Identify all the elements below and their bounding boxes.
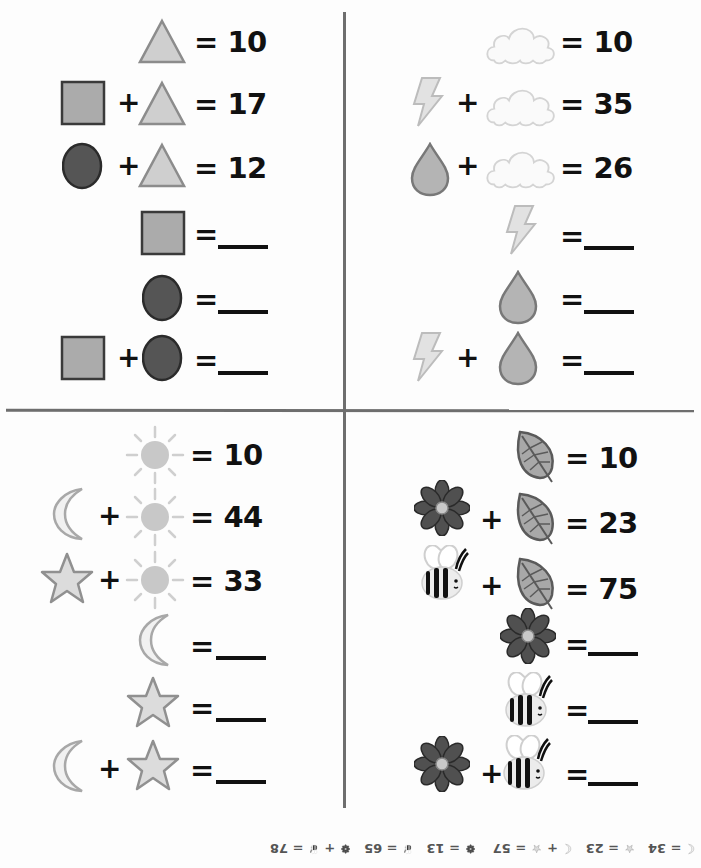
- equation-result: =: [565, 630, 589, 659]
- horizontal-divider: [6, 409, 694, 413]
- equation-result: = 10: [194, 28, 267, 57]
- raindrop-icon: [498, 270, 538, 326]
- plus-sign: +: [117, 152, 140, 180]
- cloud-icon: [485, 80, 557, 130]
- flower-icon: [341, 842, 350, 856]
- square-icon: [60, 80, 108, 128]
- cloud-icon: [485, 142, 557, 192]
- equation-result: = 17: [194, 90, 267, 119]
- equation-result: = 75: [565, 575, 638, 604]
- plus-sign: +: [456, 89, 479, 117]
- equation-result: = 23: [565, 509, 638, 538]
- equation-result: =: [560, 285, 584, 314]
- equation-result: =: [560, 222, 584, 251]
- circle-icon: [62, 142, 104, 192]
- equation-result: =: [194, 346, 218, 375]
- leaf-icon: [512, 555, 558, 613]
- answer-blank[interactable]: [216, 656, 266, 660]
- moon-icon: [48, 738, 88, 794]
- flower-icon: [500, 608, 556, 664]
- equation-result: =: [190, 694, 214, 723]
- answer-key-item: = 78: [270, 842, 304, 857]
- leaf-icon: [512, 490, 558, 548]
- answer-blank[interactable]: [216, 780, 266, 784]
- equation-result: = 10: [560, 28, 633, 57]
- plus-sign: +: [480, 506, 503, 534]
- answer-blank[interactable]: [588, 720, 638, 724]
- triangle-icon: [138, 142, 186, 190]
- answer-blank[interactable]: [588, 782, 638, 786]
- equation-result: = 33: [190, 567, 263, 596]
- answer-key-item: +: [324, 842, 335, 857]
- answer-blank[interactable]: [584, 310, 634, 314]
- circle-icon: [142, 334, 184, 384]
- answer-blank[interactable]: [216, 718, 266, 722]
- answer-blank[interactable]: [218, 371, 268, 375]
- equation-result: =: [194, 220, 218, 249]
- square-icon: [140, 210, 188, 258]
- answer-key-item: = 23: [586, 842, 620, 857]
- equation-result: = 26: [560, 154, 633, 183]
- equation-result: =: [194, 285, 218, 314]
- flower-icon: [414, 736, 470, 792]
- answer-blank[interactable]: [218, 245, 268, 249]
- answer-key-item: = 65: [364, 842, 398, 857]
- equation-result: =: [565, 760, 589, 789]
- flower-icon: [414, 480, 470, 536]
- equation-result: = 12: [194, 154, 267, 183]
- plus-sign: +: [456, 152, 479, 180]
- equation-result: = 35: [560, 90, 633, 119]
- equation-result: = 10: [565, 444, 638, 473]
- cloud-icon: [485, 18, 557, 68]
- bee-icon: [418, 545, 472, 603]
- answer-blank[interactable]: [584, 371, 634, 375]
- bee-icon: [502, 672, 556, 730]
- star-icon: [126, 739, 181, 791]
- answer-blank[interactable]: [584, 246, 634, 250]
- bee-icon: [500, 735, 554, 793]
- equation-result: =: [560, 346, 584, 375]
- plus-sign: +: [98, 502, 121, 530]
- equation-result: =: [190, 632, 214, 661]
- plus-sign: +: [98, 566, 121, 594]
- leaf-icon: [512, 428, 558, 486]
- raindrop-icon: [498, 331, 538, 387]
- answer-key-item: +: [547, 842, 558, 857]
- plus-sign: +: [456, 344, 479, 372]
- equation-result: = 44: [190, 503, 263, 532]
- star-icon: [532, 842, 541, 856]
- square-icon: [60, 335, 108, 383]
- plus-sign: +: [117, 89, 140, 117]
- answer-key-item: = 34: [648, 842, 682, 857]
- bee-icon: [310, 842, 319, 856]
- answer-key-item: = 57: [493, 842, 527, 857]
- equation-result: =: [190, 756, 214, 785]
- triangle-icon: [138, 80, 186, 128]
- equation-result: = 10: [190, 441, 263, 470]
- flower-icon: [466, 842, 475, 856]
- answer-blank[interactable]: [588, 652, 638, 656]
- lightning-icon: [410, 76, 446, 130]
- triangle-icon: [138, 18, 186, 66]
- plus-sign: +: [117, 344, 140, 372]
- raindrop-icon: [410, 142, 450, 198]
- star-icon: [625, 842, 634, 856]
- star-icon: [126, 676, 181, 728]
- bee-icon: [404, 842, 413, 856]
- lightning-icon: [410, 331, 446, 385]
- answer-blank[interactable]: [218, 310, 268, 314]
- moon-icon: [564, 842, 572, 856]
- answer-key-item: = 13: [426, 842, 460, 857]
- sun-icon: [125, 425, 185, 485]
- sun-icon: [125, 487, 185, 547]
- star-icon: [40, 552, 95, 604]
- plus-sign: +: [98, 755, 121, 783]
- answer-key: = 34 = 23 + = 57 = 13 = 65 + = 78: [270, 836, 695, 862]
- plus-sign: +: [480, 572, 503, 600]
- sun-icon: [125, 550, 185, 610]
- moon-icon: [48, 486, 88, 542]
- moon-icon: [134, 612, 174, 668]
- equation-result: =: [565, 696, 589, 725]
- circle-icon: [142, 274, 184, 324]
- lightning-icon: [503, 204, 539, 258]
